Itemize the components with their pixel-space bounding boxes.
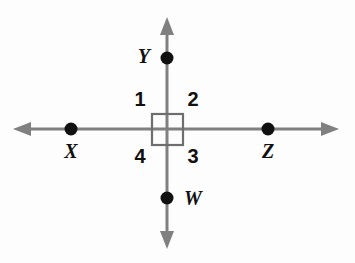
arrow-right-icon [321, 122, 339, 136]
angle-label-3: 3 [187, 145, 198, 167]
arrow-up-icon [160, 17, 174, 35]
angle-label-4: 4 [134, 145, 146, 167]
point-label-z: Z [261, 140, 274, 162]
geometry-diagram-canvas: Y X Z W 1 2 3 4 [0, 0, 355, 263]
point-dot-w [161, 192, 174, 205]
angle-label-1: 1 [134, 88, 145, 110]
arrow-left-icon [13, 122, 31, 136]
angle-label-2: 2 [187, 88, 198, 110]
point-label-w: W [184, 187, 203, 209]
point-label-y: Y [138, 45, 152, 67]
point-dot-x [65, 123, 78, 136]
arrow-down-icon [160, 231, 174, 249]
point-label-x: X [63, 140, 78, 162]
point-dot-z [262, 123, 275, 136]
intersecting-lines-figure: Y X Z W 1 2 3 4 [0, 0, 355, 263]
point-dot-y [161, 52, 174, 65]
